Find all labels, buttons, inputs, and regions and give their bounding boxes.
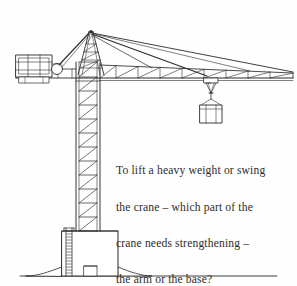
question-line-2: the crane – which part of the	[116, 199, 294, 217]
question-line-3: crane needs strengthening –	[116, 235, 294, 253]
hoist-cable-and-load-group	[200, 83, 222, 123]
hoist-drum-group	[52, 64, 63, 75]
tower-mast-group	[76, 62, 100, 231]
trolley-group	[204, 78, 218, 83]
question-line-4: the arm or the base?	[116, 271, 294, 286]
counterweight-group	[16, 55, 52, 83]
question-text: To lift a heavy weight or swing the cran…	[116, 144, 294, 286]
jib-pendant-cables-group	[92, 33, 293, 76]
slewing-junction-group	[76, 78, 100, 81]
question-line-1: To lift a heavy weight or swing	[116, 162, 294, 180]
illustration-page: To lift a heavy weight or swing the cran…	[0, 0, 297, 286]
